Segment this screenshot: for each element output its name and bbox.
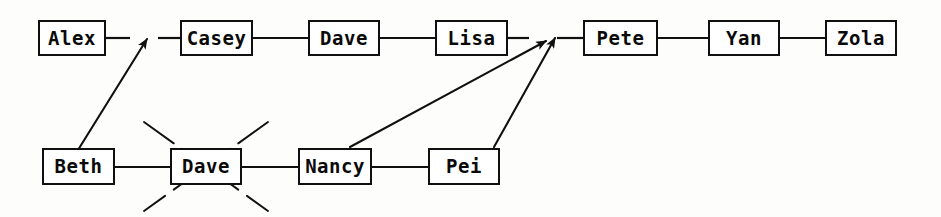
node-box-casey[interactable]: Casey [180,20,253,56]
node-label-dave_bottom: Dave [182,157,230,176]
node-label-nancy: Nancy [305,157,365,176]
node-box-pete[interactable]: Pete [583,20,658,56]
cross-out-stroke-0-0 [144,122,174,143]
node-label-lisa: Lisa [448,28,496,47]
node-box-dave_bottom[interactable]: Dave [170,148,242,185]
node-label-zola: Zola [837,28,885,47]
node-box-dave_top[interactable]: Dave [308,20,380,56]
node-box-alex[interactable]: Alex [38,20,106,56]
node-label-pete: Pete [597,28,645,47]
node-label-beth: Beth [55,157,103,176]
node-box-lisa[interactable]: Lisa [435,20,508,56]
node-label-yan: Yan [726,28,762,47]
cross-out-stroke-1-3 [144,196,165,211]
cross-out-stroke-1-0 [238,122,268,143]
node-label-pei: Pei [446,157,482,176]
node-box-pei[interactable]: Pei [428,148,500,185]
node-label-casey: Casey [187,28,247,47]
cross-out-stroke-0-3 [247,196,268,211]
node-box-nancy[interactable]: Nancy [298,148,372,185]
node-box-yan[interactable]: Yan [708,20,780,56]
node-label-dave_top: Dave [320,28,368,47]
node-box-zola[interactable]: Zola [825,20,897,56]
node-box-beth[interactable]: Beth [42,148,115,185]
node-label-alex: Alex [48,28,96,47]
diagram-canvas: AlexCaseyDaveLisaPeteYanZolaBethDaveNanc… [0,0,941,217]
arrow-nancy-to-lisa-pete-gap [350,41,546,147]
